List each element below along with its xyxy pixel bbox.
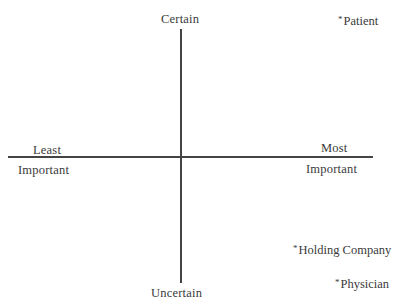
point-holding-company: *Holding Company: [293, 241, 391, 257]
stakeholder-quadrant-diagram: Certain Uncertain Least Important Most I…: [0, 0, 401, 301]
point-marker: *: [338, 14, 343, 24]
axis-label-uncertain: Uncertain: [151, 286, 202, 300]
point-label: Patient: [344, 14, 379, 28]
point-label: Physician: [341, 277, 390, 291]
point-marker: *: [335, 277, 340, 287]
axis-label-least: Least: [33, 143, 61, 157]
axis-label-most: Most: [321, 141, 348, 155]
importance-axis: [8, 156, 373, 158]
axis-label-certain: Certain: [161, 12, 199, 26]
axis-label-least-important: Important: [18, 163, 69, 177]
axis-label-most-important: Important: [306, 162, 357, 176]
point-physician: *Physician: [335, 275, 389, 291]
point-patient: *Patient: [338, 12, 378, 28]
point-marker: *: [293, 243, 298, 253]
point-label: Holding Company: [299, 243, 392, 257]
